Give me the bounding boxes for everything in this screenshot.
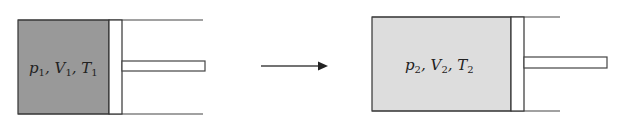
piston-diagram: p1, V1, T1 p2, V2, T2 xyxy=(0,0,630,129)
process-arrow xyxy=(261,62,328,71)
cylinder-state-2: p2, V2, T2 xyxy=(372,17,607,111)
piston-rod-1 xyxy=(122,61,205,71)
cylinder-state-1: p1, V1, T1 xyxy=(18,20,205,114)
piston-rod-2 xyxy=(524,57,607,68)
piston-1 xyxy=(109,20,122,114)
piston-2 xyxy=(511,17,524,111)
arrowhead-icon xyxy=(318,62,328,71)
